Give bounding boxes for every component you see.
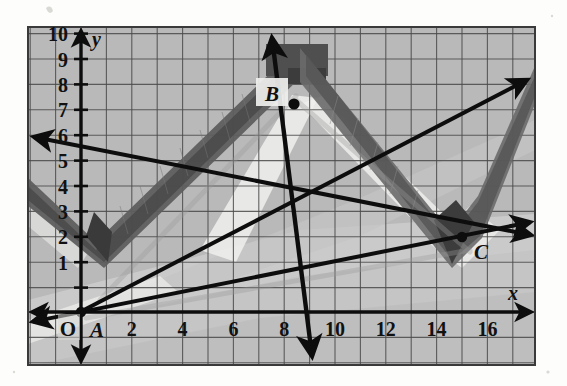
x-tick-label-6: 6 xyxy=(228,318,238,340)
x-tick-label-2: 2 xyxy=(127,318,137,340)
y-tick-label-10: 10 xyxy=(48,23,68,45)
y-tick-label-3: 3 xyxy=(58,201,68,223)
y-tick-label-2: 2 xyxy=(58,226,68,248)
x-tick-label-4: 4 xyxy=(178,318,188,340)
y-tick-label-1: 1 xyxy=(58,252,68,274)
x-tick-label-16: 16 xyxy=(477,318,497,340)
point-a-label: A xyxy=(88,318,104,342)
x-tick-label-12: 12 xyxy=(376,318,396,340)
x-tick-label-14: 14 xyxy=(427,318,447,340)
plot-area xyxy=(28,27,535,366)
y-tick-label-8: 8 xyxy=(58,74,68,96)
figure-canvas: y x 10 9 8 7 6 5 4 3 2 1 2 4 6 8 10 12 1… xyxy=(0,0,567,386)
y-axis-label: y xyxy=(90,28,101,51)
point-b-marker[interactable] xyxy=(288,98,299,109)
point-b-label: B xyxy=(264,82,279,106)
y-tick-label-4: 4 xyxy=(58,176,68,198)
y-tick-label-5: 5 xyxy=(58,150,68,172)
x-tick-label-10: 10 xyxy=(325,318,345,340)
y-tick-label-7: 7 xyxy=(58,99,68,121)
point-c-label: C xyxy=(474,240,489,264)
x-axis-label: x xyxy=(507,282,518,304)
y-tick-label-9: 9 xyxy=(58,49,68,71)
point-c-marker[interactable] xyxy=(457,232,467,242)
y-tick-label-6: 6 xyxy=(58,125,68,147)
coordinate-plane-figure: y x 10 9 8 7 6 5 4 3 2 1 2 4 6 8 10 12 1… xyxy=(0,0,567,386)
origin-label: O xyxy=(60,317,76,341)
x-tick-label-8: 8 xyxy=(279,318,289,340)
